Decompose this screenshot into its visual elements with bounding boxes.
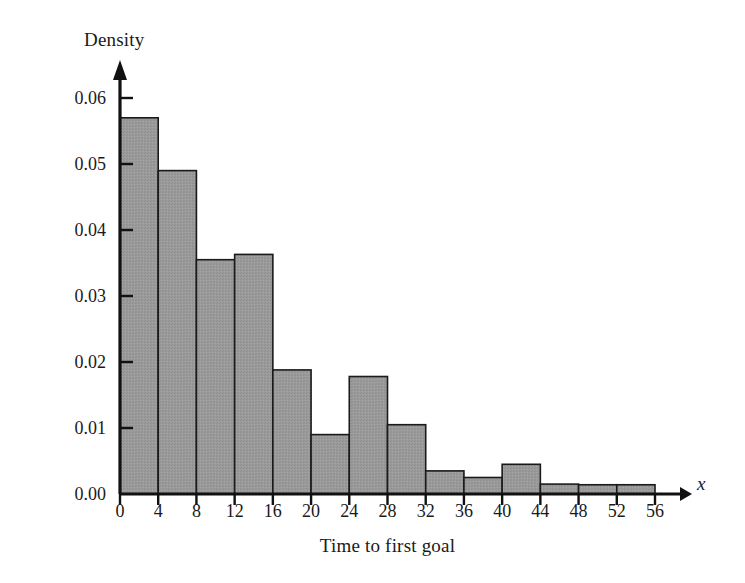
x-tick-label: 52 xyxy=(608,501,626,522)
y-tick-label: 0.03 xyxy=(38,286,106,307)
histogram-bar xyxy=(273,370,311,494)
x-tick-label: 28 xyxy=(379,501,397,522)
histogram-bar xyxy=(120,118,158,494)
x-tick-label: 40 xyxy=(493,501,511,522)
x-tick-label: 8 xyxy=(192,501,201,522)
plot-area xyxy=(0,0,745,583)
x-tick-label: 48 xyxy=(570,501,588,522)
histogram-bar xyxy=(311,435,349,494)
x-tick-label: 56 xyxy=(646,501,664,522)
histogram-bar xyxy=(426,471,464,494)
histogram-bar xyxy=(235,254,273,494)
y-tick-label: 0.02 xyxy=(38,352,106,373)
x-tick-label: 16 xyxy=(264,501,282,522)
x-tick-label: 0 xyxy=(116,501,125,522)
x-tick-label: 4 xyxy=(154,501,163,522)
y-tick-label: 0.04 xyxy=(38,220,106,241)
x-tick-label: 36 xyxy=(455,501,473,522)
x-tick-label: 12 xyxy=(226,501,244,522)
histogram-bar xyxy=(388,425,426,494)
x-axis-arrow-icon xyxy=(680,487,692,501)
y-tick-label: 0.06 xyxy=(38,88,106,109)
x-tick-label: 24 xyxy=(340,501,358,522)
y-tick-label: 0.00 xyxy=(38,484,106,505)
x-tick-label: 20 xyxy=(302,501,320,522)
x-tick-label: 32 xyxy=(417,501,435,522)
y-tick-label: 0.01 xyxy=(38,418,106,439)
histogram-bar xyxy=(502,464,540,494)
x-tick-label: 44 xyxy=(531,501,549,522)
histogram-bar xyxy=(349,377,387,494)
histogram-bar xyxy=(196,260,234,494)
y-tick-label: 0.05 xyxy=(38,154,106,175)
bars-group xyxy=(120,118,655,494)
y-axis-arrow-icon xyxy=(113,60,127,80)
histogram-bar xyxy=(158,171,196,494)
histogram-figure: Density Time to first goal x 0.000.010.0… xyxy=(0,0,745,583)
histogram-bar xyxy=(464,478,502,495)
